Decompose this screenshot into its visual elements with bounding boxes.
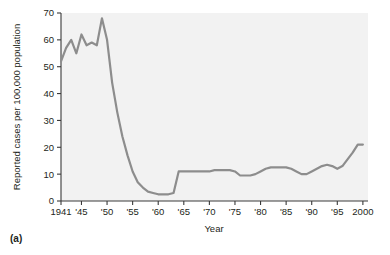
x-axis-tick-label: '55	[126, 206, 138, 217]
y-axis-ticks	[57, 13, 61, 201]
y-axis-title: Reported cases per 100,000 population	[11, 24, 22, 190]
y-axis-tick-label: 40	[43, 88, 54, 99]
x-axis-tick-label: '80	[254, 206, 266, 217]
y-axis-tick-labels: 010203040506070	[43, 7, 54, 206]
x-axis-ticks	[61, 201, 363, 205]
y-axis-tick-label: 10	[43, 169, 54, 180]
x-axis-tick-label: '65	[178, 206, 190, 217]
x-axis-tick-label: '75	[229, 206, 241, 217]
x-axis-title: Year	[204, 223, 223, 234]
x-axis-tick-label: 2000	[352, 206, 373, 217]
y-axis-tick-label: 50	[43, 61, 54, 72]
y-axis-tick-label: 60	[43, 34, 54, 45]
x-axis-tick-label: '95	[331, 206, 343, 217]
y-axis-tick-label: 0	[49, 195, 54, 206]
x-axis-tick-label: '85	[280, 206, 292, 217]
x-axis-tick-label: '50	[101, 206, 113, 217]
x-axis-tick-label: '60	[152, 206, 164, 217]
y-axis-tick-label: 20	[43, 142, 54, 153]
figure-panel: 010203040506070 1941'45'50'55'60'65'70'7…	[0, 0, 390, 255]
y-axis-tick-label: 30	[43, 115, 54, 126]
x-axis-tick-label: '90	[306, 206, 318, 217]
panel-label: (a)	[10, 233, 22, 244]
y-axis-tick-label: 70	[43, 7, 54, 18]
x-axis-tick-label: 1941	[50, 206, 71, 217]
x-axis-tick-label: '70	[203, 206, 215, 217]
x-axis-tick-label: '45	[75, 206, 87, 217]
x-axis-tick-labels: 1941'45'50'55'60'65'70'75'80'85'90'95200…	[50, 206, 373, 217]
incidence-line-chart: 010203040506070 1941'45'50'55'60'65'70'7…	[0, 0, 390, 255]
